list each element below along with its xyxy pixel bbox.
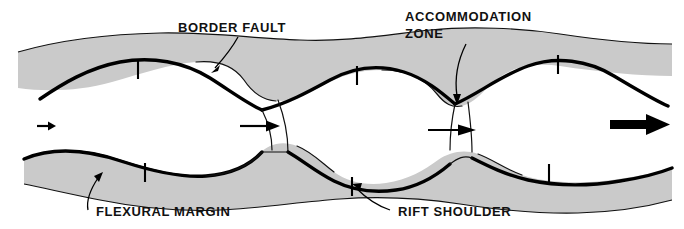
flexural-margin-label: FLEXURAL MARGIN	[96, 204, 230, 219]
accommodation-zone-label-line1: ACCOMMODATION	[405, 9, 532, 24]
extension-arrow-shaft	[610, 120, 650, 129]
rift-diagram-container: BORDER FAULT ACCOMMODATION ZONE FLEXURAL…	[0, 0, 684, 229]
border-fault-label: BORDER FAULT	[178, 20, 286, 35]
accommodation-zone-label-line2: ZONE	[405, 26, 444, 41]
rift-segmentation-diagram: BORDER FAULT ACCOMMODATION ZONE FLEXURAL…	[0, 0, 684, 229]
rift-shoulder-label: RIFT SHOULDER	[398, 204, 511, 219]
